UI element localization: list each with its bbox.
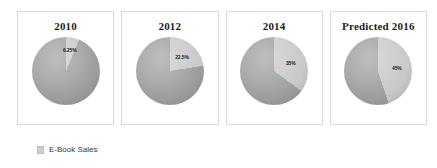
pie-panel-predicted-2016: Predicted 2016 45%	[330, 11, 427, 125]
pie-panel-2014: 2014 35%	[226, 11, 323, 125]
slice-value-label: 22.5%	[175, 54, 189, 60]
panel-title: 2014	[263, 20, 286, 32]
pie-panel-row: 2010 6.25% 2012 22.5% 2014 35%	[17, 11, 427, 125]
legend-swatch-ebook-sales	[37, 146, 44, 154]
pie-slices	[240, 37, 308, 105]
ebook-sales-pie-series: 2010 6.25% 2012 22.5% 2014 35%	[0, 0, 437, 168]
chart-legend: E-Book Sales	[37, 145, 97, 154]
pie-slices	[344, 37, 412, 105]
panel-title: 2012	[158, 20, 181, 32]
pie-chart-predicted-2016: 45%	[344, 37, 412, 105]
slice-value-label: 45%	[392, 65, 402, 71]
pie-panel-2012: 2012 22.5%	[121, 11, 218, 125]
pie-chart-2010: 6.25%	[32, 37, 100, 105]
slice-value-label: 6.25%	[63, 47, 77, 53]
pie-panel-2010: 2010 6.25%	[17, 11, 114, 125]
legend-label-ebook-sales: E-Book Sales	[49, 145, 97, 154]
pie-slices	[136, 37, 204, 105]
slice-value-label: 35%	[286, 60, 296, 66]
pie-chart-2014: 35%	[240, 37, 308, 105]
pie-chart-2012: 22.5%	[136, 37, 204, 105]
panel-title: Predicted 2016	[342, 20, 415, 32]
panel-title: 2010	[54, 20, 77, 32]
